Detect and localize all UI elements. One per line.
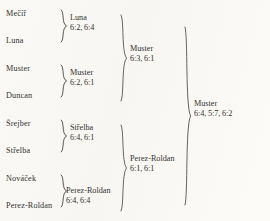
player-name-7: Nováček	[6, 174, 36, 183]
match-result-qf-3: Střelba 6:4, 6:1	[70, 123, 94, 142]
match-winner-qf-3: Střelba	[70, 123, 94, 133]
player-name-4: Duncan	[6, 91, 32, 100]
bracket-connector-r2-m1	[119, 14, 128, 102]
bracket-connector-r1-m2	[60, 64, 68, 98]
player-name-5: Šrejber	[6, 119, 31, 128]
player-name-1: Mečíř	[6, 9, 26, 18]
match-score-qf-1: 6:2, 6:4	[70, 23, 94, 33]
match-winner-qf-1: Luna	[70, 13, 94, 23]
match-winner-sf-1: Muster	[130, 44, 154, 54]
player-name-2: Luna	[6, 36, 23, 45]
player-name-8: Perez-Roldan	[6, 201, 52, 210]
match-result-final: Muster 6:4, 5:7, 6:2	[194, 99, 232, 118]
bracket-connector-r1-m3	[60, 119, 68, 153]
match-score-sf-2: 6:1, 6:1	[130, 164, 175, 174]
match-score-final: 6:4, 5:7, 6:2	[194, 109, 232, 119]
match-winner-sf-2: Perez-Roldan	[130, 154, 175, 164]
bracket-connector-r2-m2	[119, 124, 128, 212]
match-winner-final: Muster	[194, 99, 232, 109]
match-result-sf-1: Muster 6:3, 6:1	[130, 44, 154, 63]
player-name-3: Muster	[6, 64, 30, 73]
match-result-sf-2: Perez-Roldan 6:1, 6:1	[130, 154, 175, 173]
match-score-qf-4: 6:4, 6:4	[66, 196, 111, 206]
bracket-page: Mečíř Luna Muster Duncan Šrejber Střelba…	[0, 0, 270, 221]
match-winner-qf-4: Perez-Roldan	[66, 186, 111, 196]
player-name-6: Střelba	[6, 146, 30, 155]
bracket-connector-r3-final	[183, 26, 192, 206]
match-winner-qf-2: Muster	[70, 68, 94, 78]
match-result-qf-1: Luna 6:2, 6:4	[70, 13, 94, 32]
match-score-qf-3: 6:4, 6:1	[70, 133, 94, 143]
match-result-qf-4: Perez-Roldan 6:4, 6:4	[66, 186, 111, 205]
match-result-qf-2: Muster 6:2, 6:1	[70, 68, 94, 87]
match-score-sf-1: 6:3, 6:1	[130, 54, 154, 64]
match-score-qf-2: 6:2, 6:1	[70, 78, 94, 88]
bracket-connector-r1-m1	[60, 9, 68, 43]
